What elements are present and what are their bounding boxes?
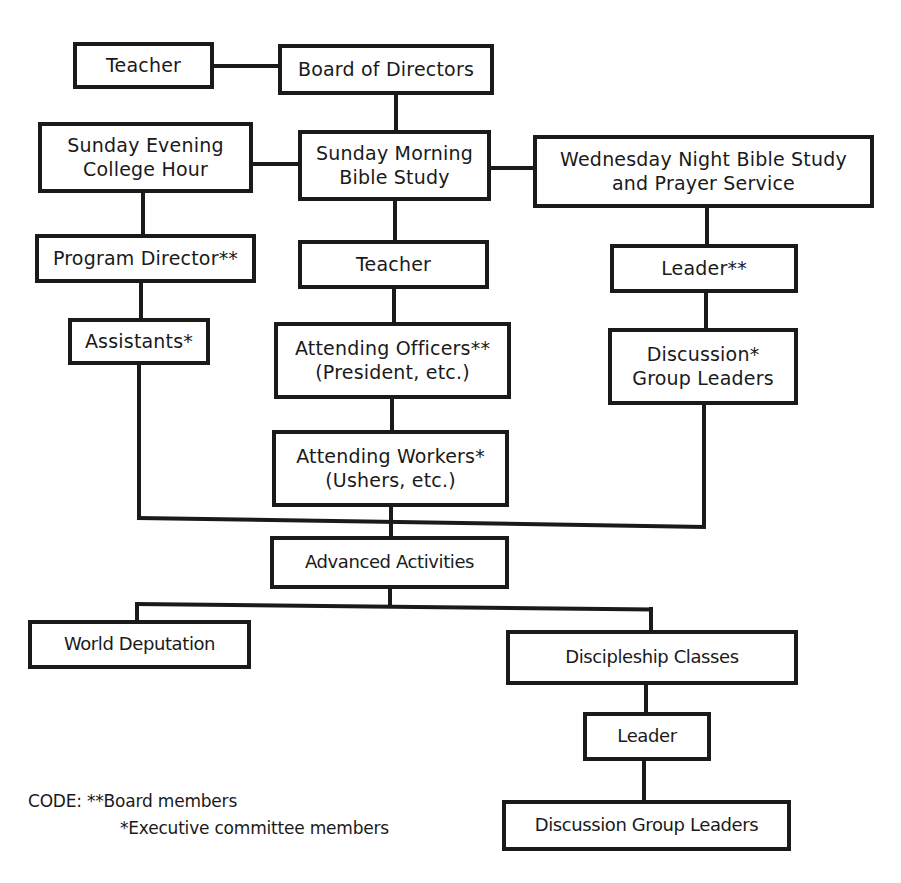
node-label-line1: Sunday Evening — [67, 134, 223, 158]
connector-program-director-assistants — [139, 282, 143, 319]
connector-branch-world-deputation — [135, 602, 139, 622]
connector-evening-program-director — [141, 192, 145, 235]
node-attending-officers: Attending Officers** (President, etc.) — [274, 322, 511, 399]
node-label: Leader — [617, 725, 676, 748]
node-assistants: Assistants* — [68, 318, 210, 365]
node-label-line1: Wednesday Night Bible Study — [560, 148, 847, 172]
node-label-line2: and Prayer Service — [612, 172, 795, 196]
node-label: Teacher — [106, 54, 181, 78]
node-label-line1: Discussion* — [647, 343, 760, 367]
connector-board-sunday-morning — [394, 94, 398, 132]
connector-advanced-branch — [388, 588, 392, 606]
node-teacher-top: Teacher — [73, 42, 214, 89]
connector-evening-morning — [252, 162, 299, 166]
node-leader-discipleship: Leader — [583, 712, 711, 761]
node-label: World Deputation — [64, 633, 215, 656]
node-label: Advanced Activities — [305, 551, 474, 574]
node-world-deputation: World Deputation — [28, 620, 251, 669]
node-leader-wednesday: Leader** — [610, 244, 798, 293]
node-sunday-evening-college-hour: Sunday Evening College Hour — [38, 122, 253, 193]
node-label-line2: (President, etc.) — [315, 361, 470, 385]
node-discussion-group-leaders: Discussion Group Leaders — [502, 800, 791, 851]
node-teacher-sunday-morning: Teacher — [298, 240, 489, 289]
node-board-of-directors: Board of Directors — [278, 44, 494, 95]
node-label-line1: Sunday Morning — [316, 142, 473, 166]
node-label: Discussion Group Leaders — [535, 814, 758, 837]
connector-teacher-officers — [392, 288, 396, 323]
node-label: Discipleship Classes — [565, 646, 738, 669]
connector-branch-horizontal — [135, 602, 653, 611]
node-discipleship-classes: Discipleship Classes — [506, 630, 798, 685]
node-label: Leader** — [661, 257, 747, 281]
node-label-line2: Bible Study — [339, 166, 449, 190]
legend-row-executive-committee: *Executive committee members — [28, 815, 389, 842]
node-label: Assistants* — [85, 330, 193, 354]
node-advanced-activities: Advanced Activities — [270, 536, 509, 589]
node-label-line1: Attending Officers** — [295, 337, 490, 361]
org-chart: Teacher Board of Directors Sunday Evenin… — [0, 0, 901, 883]
node-label: Program Director** — [53, 247, 238, 271]
node-label-line2: College Hour — [83, 158, 208, 182]
legend-row-board-members: CODE: **Board members — [28, 788, 389, 815]
node-program-director: Program Director** — [35, 234, 256, 283]
connector-assistants-down — [137, 364, 141, 520]
connector-branch-discipleship — [649, 607, 653, 632]
connector-discipleship-leader — [644, 684, 648, 714]
node-discussion-group-leaders-wednesday: Discussion* Group Leaders — [608, 328, 798, 405]
connector-morning-wednesday — [490, 166, 534, 170]
legend-code: CODE: **Board members *Executive committ… — [28, 788, 389, 842]
node-label-line1: Attending Workers* — [296, 445, 485, 469]
node-label: Teacher — [356, 253, 431, 277]
connector-leader-discussion — [704, 292, 708, 329]
connector-leader-discussion-group — [642, 760, 646, 802]
connector-wednesday-leader — [705, 207, 709, 245]
connector-morning-teacher — [393, 200, 397, 241]
connector-teacher-board — [213, 64, 279, 68]
node-wednesday-night-bible-study: Wednesday Night Bible Study and Prayer S… — [533, 135, 874, 208]
node-attending-workers: Attending Workers* (Ushers, etc.) — [272, 430, 509, 507]
connector-officers-workers — [390, 398, 394, 431]
connector-merge-horizontal — [137, 516, 706, 529]
node-label-line2: Group Leaders — [632, 367, 774, 391]
node-label-line2: (Ushers, etc.) — [325, 469, 456, 493]
connector-discussion-down — [702, 404, 706, 526]
node-label: Board of Directors — [298, 58, 474, 82]
node-sunday-morning-bible-study: Sunday Morning Bible Study — [298, 130, 491, 201]
